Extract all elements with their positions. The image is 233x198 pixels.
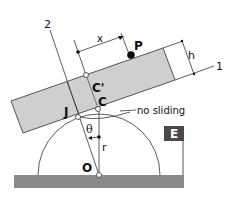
axis-1-label: 1: [216, 60, 223, 73]
x-extension-left: [74, 40, 86, 75]
radius-label: r: [102, 141, 107, 154]
theta-arrowhead: [88, 136, 92, 140]
point-c-prime-marker: [84, 73, 89, 78]
h-tick-top: [181, 40, 183, 42]
point-p-label: P: [134, 39, 143, 53]
point-o-marker: [97, 173, 102, 178]
point-c-prime-label: C': [92, 81, 104, 95]
h-extension-line: [163, 41, 183, 48]
point-c-label: C: [98, 95, 107, 109]
h-label: h: [188, 49, 195, 62]
theta-pivot-dot: [97, 135, 101, 139]
x-label: x: [97, 33, 103, 44]
axis-2-label: 2: [44, 18, 51, 31]
h-tick-bottom: [193, 73, 195, 75]
badge-e-label: E: [170, 127, 178, 141]
theta-label: θ: [86, 123, 93, 136]
point-j-label: J: [63, 105, 68, 119]
diagram-canvas: E 2 1 h x P C' C J no sliding θ r O: [0, 0, 233, 198]
x-start-dot: [76, 50, 80, 54]
point-j-marker: [76, 115, 81, 120]
no-sliding-leader: [120, 110, 136, 111]
point-o-label: O: [82, 161, 92, 175]
no-sliding-label: no sliding: [137, 105, 185, 116]
